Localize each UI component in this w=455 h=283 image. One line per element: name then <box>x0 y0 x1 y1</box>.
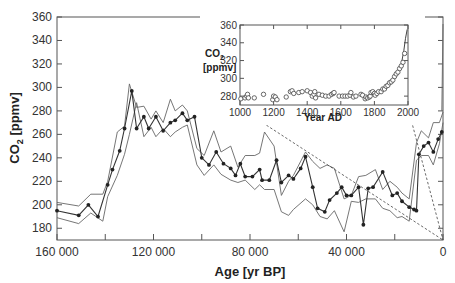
inset-data-point <box>261 92 265 96</box>
co2-data-point <box>147 127 151 131</box>
co2-data-point <box>390 194 394 198</box>
inset-x-tick-label: 1000 <box>229 107 252 118</box>
co2-data-point <box>251 175 255 179</box>
inset-data-point <box>284 95 288 99</box>
x-tick-label: 80 000 <box>232 245 269 259</box>
co2-data-point <box>258 168 262 172</box>
y-tick-label: 260 <box>32 127 52 141</box>
co2-data-point <box>229 167 233 171</box>
co2-data-point <box>415 209 419 213</box>
inset-data-point <box>354 94 358 98</box>
co2-data-point <box>238 162 242 166</box>
co2-data-point <box>267 178 271 182</box>
co2-data-point <box>381 170 385 174</box>
co2-data-point <box>316 206 320 210</box>
co2-data-point <box>86 203 90 207</box>
inset-data-point <box>275 97 279 101</box>
co2-data-point <box>181 111 185 115</box>
y-tick-label: 300 <box>32 80 52 94</box>
inset-data-point <box>313 96 317 100</box>
co2-data-point <box>260 178 264 182</box>
inset-y-title-sub: 2 <box>220 54 224 61</box>
inset-data-point <box>252 96 256 100</box>
co2-data-point <box>311 185 315 189</box>
co2-data-point <box>234 174 238 178</box>
y-tick-label: 240 <box>32 151 52 165</box>
inset-x-tick-label: 1200 <box>262 107 285 118</box>
y-tick-label: 360 <box>32 10 52 24</box>
co2-data-point <box>361 223 365 227</box>
co2-data-point <box>161 129 165 133</box>
y-tick-label: 320 <box>32 57 52 71</box>
inset-y-axis-unit: [ppmv] <box>203 62 236 73</box>
inset-x-tick-label: 2000 <box>397 107 420 118</box>
co2-data-point <box>340 185 344 189</box>
co2-data-point <box>436 137 440 141</box>
co2-data-point <box>349 194 353 198</box>
inset-y-tick-label: 300 <box>220 73 237 84</box>
co2-data-point <box>427 141 431 145</box>
co2-data-point <box>366 186 370 190</box>
co2-data-point <box>400 199 404 203</box>
co2-data-point <box>118 149 122 153</box>
co2-data-point <box>371 185 375 189</box>
co2-data-point <box>422 144 426 148</box>
co2-data-point <box>299 167 303 171</box>
co2-data-point <box>200 156 204 160</box>
y-axis-title-main: CO <box>7 144 22 164</box>
co2-data-point <box>154 115 158 119</box>
co2-data-point <box>111 168 115 172</box>
co2-data-point <box>357 185 361 189</box>
x-tick-label: 120 000 <box>132 245 176 259</box>
y-tick-label: 200 <box>32 198 52 212</box>
x-tick-label: 160 000 <box>35 245 79 259</box>
inset-data-point <box>239 97 243 101</box>
co2-data-point <box>345 194 349 198</box>
y-axis-title-unit: [ppmv] <box>7 92 22 139</box>
co2-data-point <box>96 215 100 219</box>
inset-data-point <box>402 51 406 55</box>
co2-data-point <box>55 209 59 213</box>
co2-data-point <box>222 162 226 166</box>
co2-data-point <box>142 115 146 119</box>
inset-x-axis-title: Year AD <box>304 112 342 123</box>
co2-data-point <box>106 183 110 187</box>
co2-data-point <box>243 175 247 179</box>
co2-data-point <box>304 155 308 159</box>
co2-data-point <box>328 198 332 202</box>
inset-data-point <box>246 96 250 100</box>
co2-data-point <box>395 191 399 195</box>
co2-data-point <box>275 158 279 162</box>
co2-data-point <box>214 150 218 154</box>
inset-data-point <box>401 60 405 64</box>
co2-data-point <box>335 191 339 195</box>
co2-chart: 180200220240260280300320340360 160 00012… <box>0 0 455 283</box>
inset-y-tick-label: 340 <box>220 37 237 48</box>
x-axis-title: Age [yr BP] <box>215 264 286 279</box>
co2-data-point <box>168 121 172 125</box>
inset-data-point <box>292 91 296 95</box>
inset-data-point <box>349 90 353 94</box>
co2-data-point <box>185 118 189 122</box>
y-tick-label: 220 <box>32 174 52 188</box>
co2-data-point <box>407 205 411 209</box>
inset-x-tick-label: 1800 <box>363 107 386 118</box>
co2-data-point <box>135 127 139 131</box>
co2-data-point <box>173 118 177 122</box>
co2-data-point <box>77 213 81 217</box>
co2-data-point <box>292 177 296 181</box>
inset-y-tick-label: 280 <box>220 91 237 102</box>
co2-data-point <box>207 163 211 167</box>
inset-data-point <box>313 89 317 93</box>
y-tick-label: 180 <box>32 221 52 235</box>
co2-data-point <box>279 181 283 185</box>
y-tick-label: 280 <box>32 104 52 118</box>
co2-data-point <box>431 150 435 154</box>
x-tick-label: 40 000 <box>328 245 365 259</box>
x-tick-label: 0 <box>440 245 447 259</box>
co2-data-point <box>123 127 127 131</box>
co2-data-point <box>287 174 291 178</box>
inset-y-tick-label: 360 <box>220 20 237 31</box>
inset-data-point <box>332 90 336 94</box>
co2-data-point <box>130 89 134 93</box>
